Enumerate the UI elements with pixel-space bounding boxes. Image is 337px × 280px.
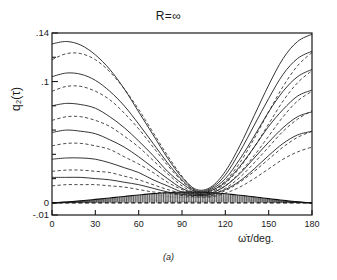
x-tick-label: 0: [37, 219, 67, 229]
x-axis-label: ω̇τ/deg.: [238, 232, 274, 244]
x-tick-label: 150: [254, 219, 284, 229]
x-tick-label-layer: 0306090120150180: [0, 0, 337, 280]
figure-container: R=∞ q₂(τ) -.010.1.14 0306090120150180 ω̇…: [0, 0, 337, 280]
x-tick-label: 120: [210, 219, 240, 229]
x-tick-label: 60: [124, 219, 154, 229]
x-tick-label: 30: [80, 219, 110, 229]
figure-caption: (a): [0, 252, 337, 262]
x-tick-label: 90: [167, 219, 197, 229]
x-tick-label: 180: [297, 219, 327, 229]
